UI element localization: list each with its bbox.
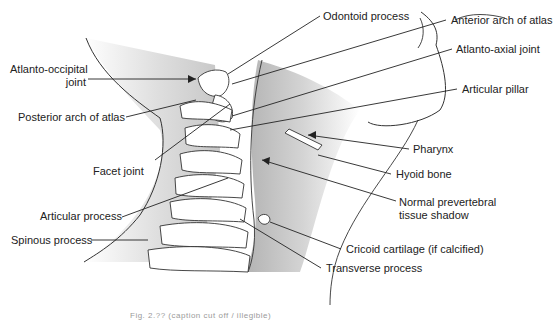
label-articular-pillar: Articular pillar [462, 83, 529, 96]
label-pharynx: Pharynx [413, 143, 453, 156]
cervical-spine-diagram: Atlanto-occipital joint Posterior arch o… [0, 0, 557, 324]
label-transverse-process: Transverse process [326, 262, 422, 275]
label-text-line2: tissue shadow [399, 209, 469, 221]
figure-caption: Fig. 2.?? (caption cut off / illegible) [130, 311, 271, 320]
label-text: Atlanto-occipital [10, 63, 88, 75]
label-facet-joint: Facet joint [93, 165, 144, 178]
label-text: Normal prevertebral [399, 196, 496, 208]
label-posterior-arch-of-atlas: Posterior arch of atlas [18, 111, 125, 124]
label-atlanto-axial-joint: Atlanto-axial joint [456, 43, 540, 56]
label-prevertebral-tissue-shadow: Normal prevertebral tissue shadow [399, 196, 496, 222]
label-articular-process: Articular process [40, 210, 122, 223]
label-atlanto-occipital-joint: Atlanto-occipital joint [10, 63, 86, 89]
label-hyoid-bone: Hyoid bone [396, 168, 452, 181]
label-cricoid-cartilage: Cricoid cartilage (if calcified) [346, 243, 484, 256]
label-text-line2: joint [66, 76, 86, 88]
label-anterior-arch-of-atlas: Anterior arch of atlas [451, 14, 553, 27]
label-spinous-process: Spinous process [11, 234, 92, 247]
label-odontoid-process: Odontoid process [323, 10, 409, 23]
